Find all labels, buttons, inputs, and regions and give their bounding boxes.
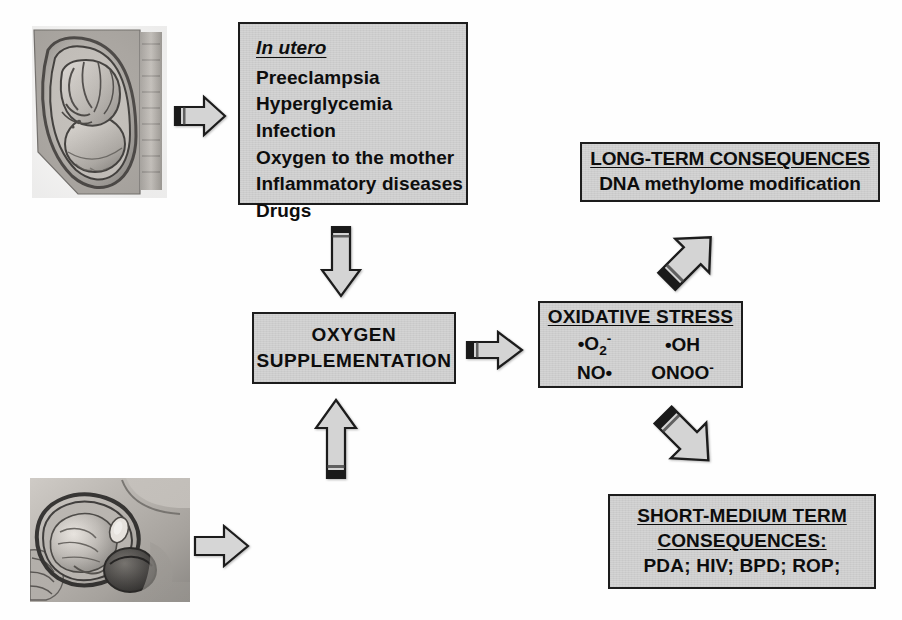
box-long-term-consequences: LONG-TERM CONSEQUENCES DNA methylome mod… bbox=[580, 142, 880, 202]
radical-superoxide: •O2- bbox=[553, 331, 637, 360]
oxygen-supplementation-line1: OXYGEN bbox=[312, 322, 397, 348]
short-medium-consequences-values: PDA; HIV; BPD; ROP; bbox=[644, 554, 841, 579]
radical-hydroxyl: •OH bbox=[637, 333, 729, 356]
arrow-in-utero-to-oxygen bbox=[318, 224, 364, 300]
box-oxygen-supplementation: OXYGEN SUPPLEMENTATION bbox=[252, 312, 456, 384]
in-utero-item-3: Oxygen to the mother bbox=[256, 146, 466, 171]
long-term-consequences-subtitle: DNA methylome modification bbox=[599, 172, 861, 197]
long-term-consequences-title: LONG-TERM CONSEQUENCES bbox=[590, 147, 870, 172]
arrow-oxygen-to-oxidative-stress bbox=[464, 328, 526, 372]
fetus-in-utero-image bbox=[32, 26, 167, 198]
oxidative-stress-radicals-row-2: NO• ONOO- bbox=[540, 360, 741, 385]
in-utero-item-4: Inflammatory diseases bbox=[256, 172, 466, 197]
oxidative-stress-title: OXIDATIVE STRESS bbox=[548, 305, 734, 330]
diagram-canvas: In utero Preeclampsia Hyperglycemia Infe… bbox=[0, 0, 902, 620]
in-utero-item-5: Drugs bbox=[256, 199, 466, 224]
in-utero-item-1: Hyperglycemia bbox=[256, 92, 466, 117]
arrow-oxidative-stress-to-short-medium bbox=[640, 392, 730, 482]
in-utero-header: In utero bbox=[256, 36, 326, 61]
in-utero-item-2: Infection bbox=[256, 119, 466, 144]
delivery-image bbox=[30, 478, 190, 602]
arrow-oxidative-stress-to-long-term bbox=[646, 218, 730, 302]
short-medium-consequences-title-line1: SHORT-MEDIUM TERM bbox=[637, 504, 847, 529]
box-oxidative-stress: OXIDATIVE STRESS •O2- •OH NO• ONOO- bbox=[538, 301, 743, 388]
arrow-delivery-to-oxygen bbox=[312, 396, 360, 482]
arrow-fetus-to-in-utero bbox=[172, 94, 228, 138]
short-medium-consequences-title-line2: CONSEQUENCES: bbox=[657, 529, 826, 554]
arrow-delivery-figure-to-delivery-box bbox=[192, 522, 252, 570]
box-in-utero: In utero Preeclampsia Hyperglycemia Infe… bbox=[238, 22, 468, 205]
radical-peroxynitrite: ONOO- bbox=[637, 360, 729, 385]
oxygen-supplementation-line2: SUPPLEMENTATION bbox=[256, 348, 451, 374]
oxidative-stress-radicals-row-1: •O2- •OH bbox=[540, 331, 741, 360]
radical-nitric-oxide: NO• bbox=[553, 361, 637, 384]
box-short-medium-consequences: SHORT-MEDIUM TERM CONSEQUENCES: PDA; HIV… bbox=[608, 494, 876, 589]
in-utero-item-0: Preeclampsia bbox=[256, 66, 466, 91]
